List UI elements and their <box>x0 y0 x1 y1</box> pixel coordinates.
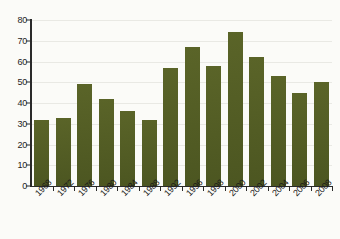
y-axis-ticks: 01020304050607080 <box>0 0 27 239</box>
bar <box>120 111 135 186</box>
y-tick-label: 50 <box>17 77 27 87</box>
y-tick-label: 60 <box>17 57 27 67</box>
y-tick-label: 10 <box>17 160 27 170</box>
bar <box>99 99 114 186</box>
y-tick-label: 20 <box>17 140 27 150</box>
y-tick-label: 80 <box>17 15 27 25</box>
bar <box>77 84 92 186</box>
bar <box>56 118 71 186</box>
bar-series <box>31 20 332 186</box>
x-axis-labels: 1968197219761980198419881992199619982000… <box>31 191 332 239</box>
bar <box>163 68 178 186</box>
bar <box>228 32 243 186</box>
bar <box>314 82 329 186</box>
bar <box>206 66 221 186</box>
y-tick-label: 0 <box>22 181 27 191</box>
bar <box>34 120 49 186</box>
bar <box>271 76 286 186</box>
y-tick-label: 40 <box>17 98 27 108</box>
bar <box>292 93 307 186</box>
bar-chart: 01020304050607080 1968197219761980198419… <box>0 0 340 239</box>
x-tick-mark <box>332 186 333 191</box>
bar <box>185 47 200 186</box>
bar <box>249 57 264 186</box>
bar <box>142 120 157 186</box>
y-tick-label: 70 <box>17 36 27 46</box>
y-tick-label: 30 <box>17 119 27 129</box>
